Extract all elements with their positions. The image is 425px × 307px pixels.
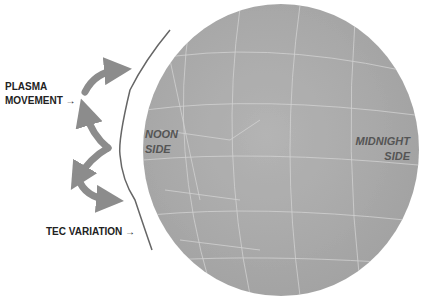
plasma-label-line1: PLASMA	[5, 80, 76, 94]
midnight-label-line1: MIDNIGHT	[352, 134, 410, 149]
midnight-label-line2: SIDE	[352, 149, 410, 164]
noon-side-label: NOON SIDE	[145, 127, 178, 157]
tec-variation-label: TEC VARIATION →	[46, 225, 135, 239]
plasma-arrows	[78, 70, 118, 200]
plasma-movement-label: PLASMA MOVEMENT →	[5, 80, 76, 108]
noon-label-line2: SIDE	[145, 142, 178, 157]
plasma-label-line2: MOVEMENT →	[5, 94, 76, 108]
midnight-side-label: MIDNIGHT SIDE	[352, 134, 410, 164]
noon-label-line1: NOON	[145, 127, 178, 142]
